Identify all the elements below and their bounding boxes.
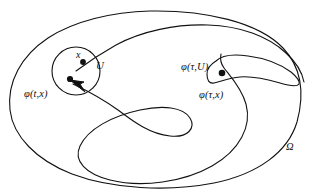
label-domain-omega: Ω [286,142,294,153]
flow-line-upper-path [76,25,304,82]
trajectory-arrowhead [70,80,85,92]
label-flow-tau-u: φ(τ,U) [181,62,208,73]
point-phi-tau-x-dot [219,70,226,77]
point-phi-t-x-dot [67,76,73,82]
flow-diagram-figure: x U φ(t,x) φ(τ,U) φ(τ,x) Ω [0,0,312,196]
label-point-x: x [76,50,81,60]
label-flow-tau-x: φ(τ,x) [199,90,223,101]
label-set-u: U [96,60,104,71]
omega-boundary-path [10,11,301,188]
label-flow-t-x: φ(t,x) [24,89,48,100]
